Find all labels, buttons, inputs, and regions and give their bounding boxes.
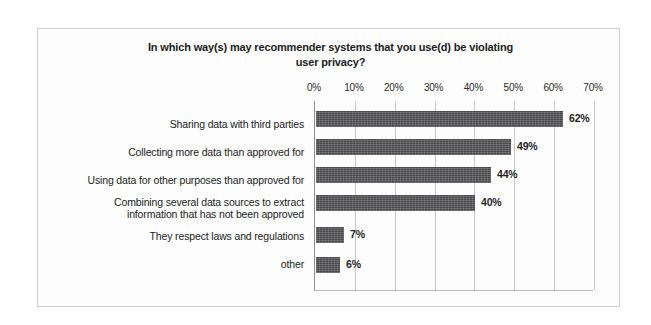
bars-layer: 62% 49% 44% 40% 7% 6% (315, 101, 593, 290)
bar-collecting-more-data-than-approved-for (316, 139, 511, 155)
x-tick-label-50: 50% (493, 82, 533, 93)
category-label-sharing-data-with-third-parties: Sharing data with third parties (42, 118, 304, 130)
bar-value-label: 6% (346, 258, 361, 270)
bar-sharing-data-with-third-parties (316, 111, 563, 127)
category-label-combining-several-data-sources: Combining several data sources to extrac… (42, 196, 304, 220)
bar-value-label: 49% (517, 140, 537, 152)
chart-title-line-2: user privacy? (63, 55, 598, 70)
x-tick-label-20: 20% (374, 82, 414, 93)
y-axis-category-labels: Sharing data with third parties Collecti… (48, 101, 310, 291)
plot-area: 62% 49% 44% 40% 7% 6% (314, 101, 593, 291)
chart-title: In which way(s) may recommender systems … (63, 40, 598, 70)
bar-value-label: 40% (481, 196, 501, 208)
bar-value-label: 44% (497, 168, 517, 180)
category-label-they-respect-laws-and-regulations: They respect laws and regulations (42, 230, 304, 242)
x-axis-tick-labels: 0% 10% 20% 30% 40% 50% 60% 70% (38, 82, 621, 96)
x-tick-label-70: 70% (573, 82, 613, 93)
chart-frame: In which way(s) may recommender systems … (37, 28, 620, 307)
bar-value-label: 62% (569, 112, 589, 124)
bar-row: 44% (315, 161, 651, 189)
bar-value-label: 7% (350, 228, 365, 240)
bar-row: 40% (315, 189, 651, 217)
category-label-using-data-for-other-purposes: Using data for other purposes than appro… (42, 174, 304, 186)
bar-row: 62% (315, 105, 651, 133)
x-tick-label-30: 30% (414, 82, 454, 93)
bar-row: 6% (315, 251, 651, 279)
bar-they-respect-laws-and-regulations (316, 227, 344, 243)
x-tick-label-10: 10% (334, 82, 374, 93)
x-tick-label-40: 40% (453, 82, 493, 93)
chart-title-line-1: In which way(s) may recommender systems … (63, 40, 598, 55)
category-label-collecting-more-data-than-approved-for: Collecting more data than approved for (42, 146, 304, 158)
bar-using-data-for-other-purposes (316, 167, 491, 183)
category-label-other: other (42, 258, 304, 270)
bar-combining-several-data-sources (316, 195, 475, 211)
x-tick-label-60: 60% (533, 82, 573, 93)
bar-other (316, 257, 340, 273)
x-tick-label-0: 0% (294, 82, 334, 93)
bar-row: 7% (315, 221, 651, 249)
bar-row: 49% (315, 133, 651, 161)
